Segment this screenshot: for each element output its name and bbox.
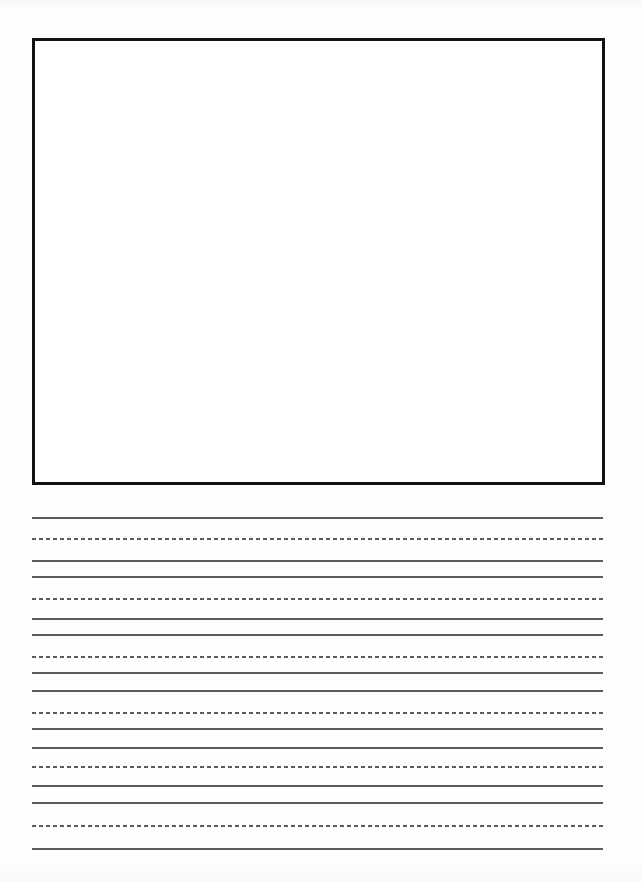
writing-line-6-midline <box>32 825 603 827</box>
writing-line-2-baseline <box>32 618 603 620</box>
writing-line-1-topline <box>32 517 603 519</box>
writing-line-5-baseline <box>32 785 603 787</box>
drawing-box[interactable] <box>32 38 605 485</box>
writing-line-1-midline <box>32 538 603 540</box>
writing-line-3-midline <box>32 656 603 658</box>
writing-line-6-topline <box>32 802 603 804</box>
writing-line-5-topline <box>32 747 603 749</box>
writing-line-1-baseline <box>32 560 603 562</box>
scan-grain-top-edge <box>0 0 642 14</box>
writing-line-3-baseline <box>32 672 603 674</box>
writing-line-3-topline <box>32 634 603 636</box>
writing-line-4-midline <box>32 712 603 714</box>
worksheet-page <box>0 0 642 881</box>
writing-line-4-baseline <box>32 728 603 730</box>
writing-line-2-midline <box>32 598 603 600</box>
writing-line-6-baseline <box>32 848 603 850</box>
writing-line-4-topline <box>32 690 603 692</box>
writing-line-5-midline <box>32 766 603 768</box>
writing-line-2-topline <box>32 576 603 578</box>
scan-grain-bottom-edge <box>0 855 642 881</box>
